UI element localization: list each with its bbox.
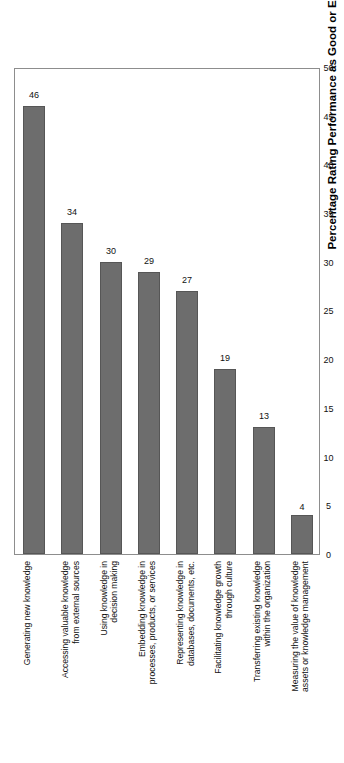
- category-label-1: Accessing valuable knowledge from extern…: [60, 561, 81, 757]
- bar-value-label: 30: [106, 247, 116, 256]
- bar-value-label: 34: [67, 208, 77, 217]
- bar-rect: [23, 106, 45, 554]
- category-label-2: Using knowledge in decision making: [99, 561, 120, 757]
- bar-value-label: 19: [220, 354, 230, 363]
- bar-5: 19: [214, 67, 236, 554]
- category-label-7: Measuring the value of knowledge assets …: [290, 561, 311, 757]
- bar-value-label: 27: [182, 277, 192, 286]
- bar-rect: [214, 369, 236, 554]
- category-label-0: Generating new knowledge: [22, 561, 33, 757]
- bar-rect: [138, 272, 160, 554]
- bar-rect: [176, 291, 198, 554]
- bar-6: 13: [253, 67, 275, 554]
- category-label-3: Embedding knowledge in processes, produc…: [137, 561, 158, 757]
- bar-4: 27: [176, 67, 198, 554]
- category-label-5: Facilitating knowledge growth through cu…: [213, 561, 234, 757]
- bar-chart-figure: Generating new knowledgeAccessing valuab…: [0, 0, 344, 763]
- bar-value-label: 4: [299, 503, 304, 512]
- value-axis-title-wrap: Percentage Rating Performance as Good or…: [326, 68, 344, 555]
- bar-value-label: 29: [144, 257, 154, 266]
- category-label-6: Transferring existing knowledge within t…: [252, 561, 273, 757]
- bar-rect: [291, 515, 313, 554]
- bar-2: 30: [100, 67, 122, 554]
- bar-1: 34: [61, 67, 83, 554]
- bar-value-label: 13: [259, 413, 269, 422]
- value-axis-title: Percentage Rating Performance as Good or…: [326, 0, 338, 347]
- bar-3: 29: [138, 67, 160, 554]
- bar-rect: [61, 223, 83, 554]
- plot-area: 463430292719134: [14, 68, 320, 555]
- bar-value-label: 46: [29, 91, 39, 100]
- category-label-4: Representing knowledge in databases, doc…: [175, 561, 196, 757]
- bar-7: 4: [291, 67, 313, 554]
- rotated-figure-wrapper: Generating new knowledgeAccessing valuab…: [0, 0, 344, 763]
- bar-rect: [253, 427, 275, 554]
- bar-rect: [100, 262, 122, 554]
- bar-0: 46: [23, 67, 45, 554]
